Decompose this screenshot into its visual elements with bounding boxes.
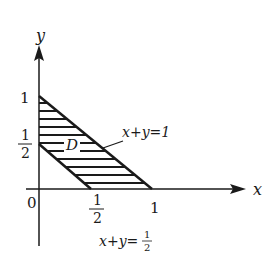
line-label-x-plus-y-half: x+y= 1 2 xyxy=(99,229,152,253)
svg-text:x+y=: x+y= xyxy=(99,233,138,249)
region-label: D xyxy=(65,136,78,154)
label-leader-line xyxy=(103,141,123,148)
diagram-canvas: D y x 0 1 1 2 1 2 1 x+y=1 x+y= 1 2 xyxy=(0,0,278,274)
svg-text:2: 2 xyxy=(21,145,30,161)
y-axis-label: y xyxy=(35,26,46,45)
x-tick-half: 1 2 xyxy=(89,192,104,226)
x-axis xyxy=(26,184,246,194)
x-axis-label: x xyxy=(253,180,262,199)
svg-text:1: 1 xyxy=(93,192,102,208)
svg-text:1: 1 xyxy=(144,229,150,240)
origin-label: 0 xyxy=(27,194,37,212)
svg-text:2: 2 xyxy=(144,242,150,253)
x-tick-1: 1 xyxy=(150,199,160,217)
svg-text:1: 1 xyxy=(21,127,30,143)
y-tick-half: 1 2 xyxy=(18,127,32,161)
line-label-x-plus-y-1: x+y=1 xyxy=(122,124,170,140)
svg-text:2: 2 xyxy=(93,210,102,226)
region-hatching xyxy=(30,103,170,183)
y-tick-1: 1 xyxy=(20,89,30,107)
